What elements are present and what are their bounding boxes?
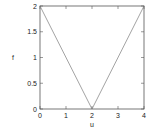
x-tick-label: 1 [64, 112, 68, 119]
y-tick-label: 1.5 [27, 28, 37, 35]
x-tick-label: 4 [142, 112, 146, 119]
x-axis-label: u [90, 121, 94, 128]
series-line [40, 6, 144, 109]
x-tick-label: 0 [38, 112, 42, 119]
y-tick-label: 0.5 [27, 80, 37, 87]
y-tick-label: 0 [33, 106, 37, 113]
x-tick-label: 2 [90, 112, 94, 119]
x-tick-label: 3 [116, 112, 120, 119]
y-axis-label: f [12, 54, 14, 61]
x-axis-ticks: 01234 [38, 6, 146, 119]
y-tick-label: 2 [33, 3, 37, 10]
plot-area [40, 6, 144, 109]
y-tick-label: 1 [33, 54, 37, 61]
plot-frame [40, 6, 144, 109]
chart: 01234 00.511.52 u f [0, 0, 153, 135]
